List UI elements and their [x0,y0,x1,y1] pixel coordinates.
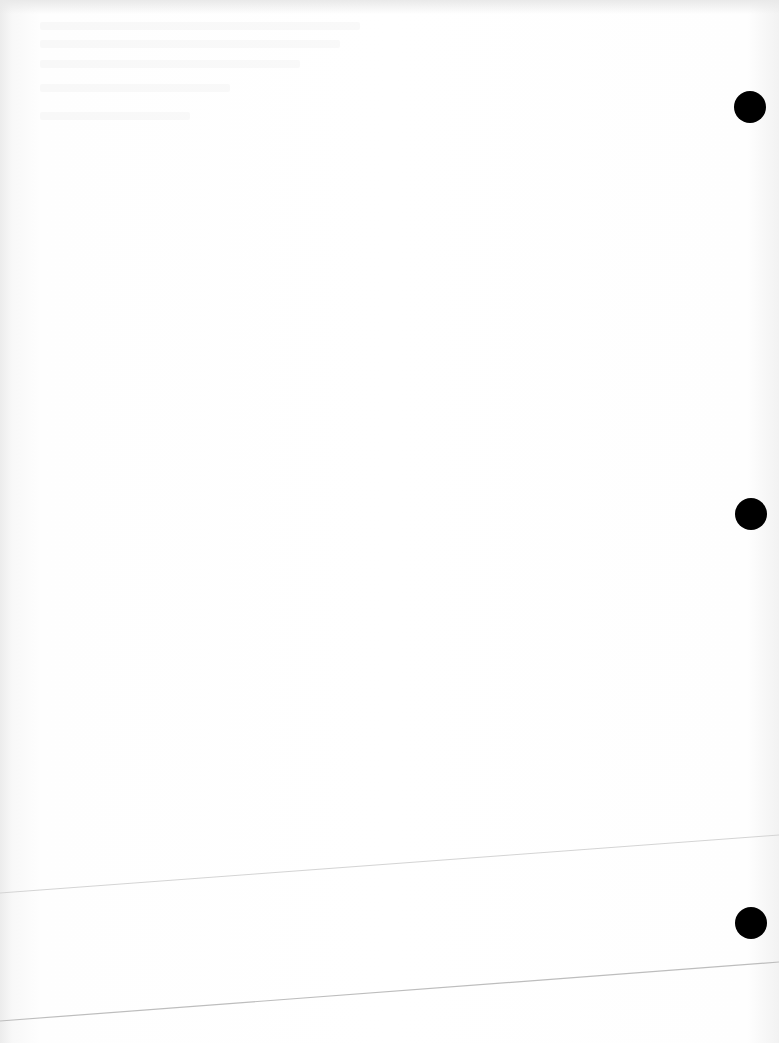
punch-hole-icon [734,91,766,123]
punch-hole-icon [735,907,767,939]
fold-lines [0,0,779,1043]
scanned-page [0,0,779,1043]
punch-hole-icon [735,498,767,530]
